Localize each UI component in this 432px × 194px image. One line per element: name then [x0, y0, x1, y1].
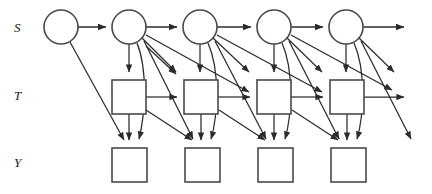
node-s3[interactable] — [183, 10, 217, 44]
node-t4[interactable] — [330, 80, 364, 114]
edges-t-to-y — [129, 114, 347, 140]
row-label-t: T — [14, 88, 22, 103]
edge-s5-out-t — [359, 38, 394, 72]
node-s1[interactable] — [44, 10, 78, 44]
row-label-s: S — [14, 20, 21, 35]
node-t2[interactable] — [184, 80, 218, 114]
edge-s5-out-y — [361, 41, 411, 139]
row-labels: S T Y — [14, 20, 23, 170]
edge-s4-t4 — [287, 38, 322, 72]
node-y4[interactable] — [331, 148, 366, 182]
node-s2[interactable] — [112, 10, 146, 44]
node-y3[interactable] — [258, 148, 293, 182]
edge-s2-t2 — [142, 38, 176, 72]
edges-t-cross — [146, 110, 338, 140]
node-t3[interactable] — [257, 80, 291, 114]
node-t1[interactable] — [112, 80, 146, 114]
graph-canvas: S T Y — [0, 0, 432, 194]
node-y1[interactable] — [112, 148, 147, 182]
node-s5[interactable] — [329, 10, 363, 44]
edges-long-range — [146, 46, 176, 74]
node-y2[interactable] — [185, 148, 220, 182]
row-label-y: Y — [14, 155, 23, 170]
node-s4[interactable] — [257, 10, 291, 44]
edge-longrange-1 — [146, 46, 176, 74]
causal-graph-figure: S T Y — [0, 0, 432, 194]
